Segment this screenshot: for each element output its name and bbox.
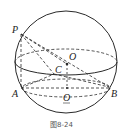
segment-PO bbox=[21, 34, 67, 64]
label-C: C bbox=[55, 64, 62, 75]
label-P: P bbox=[11, 24, 18, 35]
label-O: O bbox=[69, 51, 76, 62]
label-B: B bbox=[111, 88, 117, 99]
segment-CB bbox=[54, 74, 109, 87]
label-O1: O bbox=[63, 92, 70, 103]
sphere-diagram: P O C A B O 图8-24 bbox=[0, 0, 128, 130]
equator-back-arc bbox=[15, 49, 117, 62]
label-A: A bbox=[11, 88, 19, 99]
point-O bbox=[66, 63, 69, 66]
segment-PC bbox=[21, 34, 54, 74]
point-O1 bbox=[66, 87, 68, 89]
segment-AC bbox=[21, 74, 54, 88]
figure-caption: 图8-24 bbox=[50, 121, 73, 129]
